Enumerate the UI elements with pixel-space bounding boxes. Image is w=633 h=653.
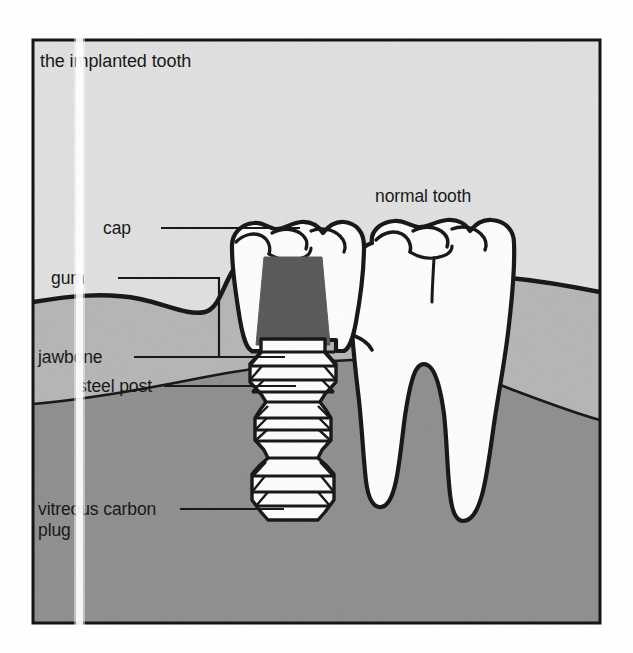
label-vitreous-carbon: vitreous carbon bbox=[38, 499, 156, 519]
label-cap: cap bbox=[103, 218, 131, 238]
figure-page: the implanted tooth cap gum jawbone stee… bbox=[0, 0, 633, 653]
label-vitreous-carbon-plug: plug bbox=[38, 520, 71, 540]
steel-post-head bbox=[256, 257, 330, 345]
label-normal-tooth: normal tooth bbox=[375, 186, 471, 206]
label-jawbone: jawbone bbox=[37, 347, 103, 367]
label-steel-post: steel post bbox=[78, 376, 152, 396]
dental-implant-figure: the implanted tooth cap gum jawbone stee… bbox=[0, 0, 633, 653]
vitreous-carbon-plug bbox=[249, 339, 337, 520]
figure-title: the implanted tooth bbox=[40, 51, 191, 71]
figure-interior: the implanted tooth cap gum jawbone stee… bbox=[33, 40, 600, 623]
label-gum: gum bbox=[51, 268, 85, 288]
